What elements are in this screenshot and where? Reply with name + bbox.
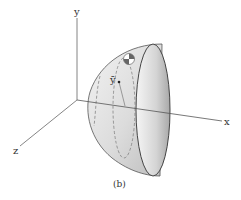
centroid-label: ȳ [109,74,116,85]
x-axis-label: x [224,116,230,127]
centroid-point [118,81,121,84]
paraboloid-diagram: y z x ȳ (b) [0,0,241,200]
rim-opening [136,44,170,176]
y-axis-label: y [73,6,80,17]
figure-caption: (b) [113,179,126,189]
z-axis [20,100,77,146]
centroid-marker-icon [124,54,135,65]
z-axis-label: z [13,145,18,156]
